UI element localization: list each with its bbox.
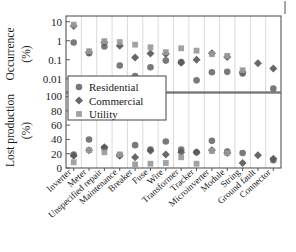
legend-label: Residential bbox=[89, 81, 139, 93]
occurrence-axis-title-unit: (%) bbox=[20, 45, 33, 62]
occurrence-axis-title: Occurrence bbox=[4, 28, 16, 81]
data-point bbox=[194, 48, 200, 54]
x-axis-labels: InverterMeterUnspecified repairMaintenan… bbox=[45, 167, 274, 220]
lost-production-axis-title: Lost production bbox=[4, 94, 17, 167]
data-point bbox=[86, 136, 93, 143]
data-point bbox=[86, 147, 92, 153]
data-point bbox=[194, 161, 200, 167]
data-point bbox=[163, 49, 169, 55]
data-point bbox=[131, 153, 139, 161]
data-point bbox=[163, 57, 170, 64]
y-tick-label: 100 bbox=[46, 90, 63, 102]
data-point bbox=[71, 159, 77, 165]
y-tick-label: 10 bbox=[51, 16, 63, 28]
data-point bbox=[163, 138, 170, 145]
data-point bbox=[117, 152, 123, 158]
data-point bbox=[147, 64, 154, 71]
data-point bbox=[270, 85, 277, 92]
y-axis-unit-text: (%) bbox=[20, 122, 33, 139]
legend-label: Utility bbox=[89, 108, 118, 120]
data-point bbox=[101, 149, 107, 155]
scatter-chart: 1010.10.01100806040200Occurrence(%)Lost … bbox=[0, 0, 296, 252]
data-point bbox=[101, 38, 107, 44]
data-point bbox=[132, 42, 138, 48]
data-point bbox=[224, 53, 230, 59]
data-point bbox=[132, 142, 139, 149]
data-point bbox=[148, 161, 154, 167]
data-point bbox=[239, 159, 247, 167]
data-point bbox=[117, 39, 123, 45]
data-point bbox=[148, 44, 154, 50]
data-point bbox=[239, 150, 246, 157]
data-point bbox=[71, 22, 77, 28]
data-point bbox=[254, 151, 262, 159]
data-point bbox=[131, 54, 139, 62]
data-point bbox=[193, 56, 201, 64]
data-point bbox=[116, 62, 123, 69]
data-point bbox=[254, 59, 262, 67]
data-point bbox=[193, 148, 201, 156]
data-point bbox=[224, 69, 231, 76]
data-point bbox=[70, 39, 77, 46]
y-tick-label: 40 bbox=[51, 133, 63, 145]
data-point bbox=[178, 45, 184, 51]
y-tick-label: 20 bbox=[51, 148, 63, 160]
legend: ResidentialCommercialUtility bbox=[68, 76, 166, 120]
chart-figure: 1010.10.01100806040200Occurrence(%)Lost … bbox=[0, 0, 296, 252]
legend-marker-square bbox=[76, 111, 82, 117]
data-point bbox=[209, 138, 216, 145]
data-point bbox=[209, 69, 216, 76]
data-point bbox=[146, 50, 154, 58]
y-tick-label: 80 bbox=[51, 105, 63, 117]
y-tick-label: 0.01 bbox=[43, 73, 62, 85]
data-point bbox=[132, 162, 138, 168]
y-tick-label: 0.1 bbox=[48, 54, 62, 66]
y-tick-label: 1 bbox=[57, 35, 63, 47]
y-tick-label: 60 bbox=[51, 119, 63, 131]
legend-label: Commercial bbox=[89, 95, 143, 107]
lost-production-axis-title-unit: (%) bbox=[20, 122, 33, 139]
data-point bbox=[86, 48, 92, 54]
data-point bbox=[178, 154, 184, 160]
data-point bbox=[162, 150, 170, 158]
y-axis-unit-text: (%) bbox=[20, 45, 33, 62]
data-point bbox=[269, 64, 277, 72]
data-point bbox=[163, 160, 169, 166]
data-point bbox=[193, 77, 200, 84]
legend-marker-circle bbox=[76, 84, 83, 91]
y-axis-label-text: Occurrence bbox=[4, 28, 16, 81]
y-axis-label-text: Lost production bbox=[4, 94, 17, 167]
data-point bbox=[209, 148, 215, 154]
data-point bbox=[177, 59, 185, 67]
page-edge-artifact bbox=[284, 1, 286, 14]
data-point bbox=[240, 67, 246, 73]
data-point bbox=[209, 51, 215, 57]
data-point bbox=[224, 150, 230, 156]
